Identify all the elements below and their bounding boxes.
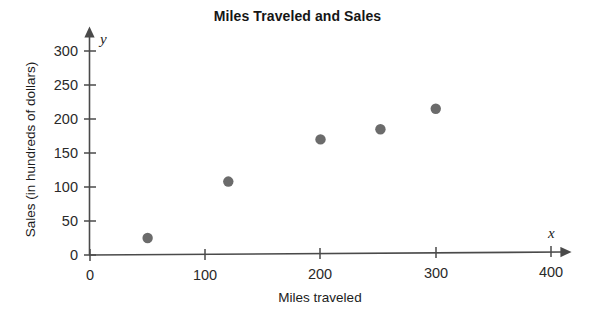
- x-axis-ticks: [90, 246, 551, 261]
- data-point: [223, 176, 233, 186]
- scatter-chart: Miles Traveled and Sales: [0, 0, 595, 320]
- x-tick-label-0: 0: [86, 267, 94, 283]
- y-axis-title: Sales (in hundreds of dollars): [23, 35, 38, 265]
- y-tick-label-100: 100: [54, 179, 78, 195]
- data-point: [142, 233, 152, 243]
- x-tick-label-100: 100: [193, 267, 217, 283]
- y-tick-label-0: 0: [70, 247, 78, 263]
- x-axis-line: [89, 252, 562, 255]
- y-tick-label-300: 300: [54, 43, 78, 59]
- plot-area: 0 100 200 300 400 0 50 100 150 200 250 3…: [0, 0, 595, 320]
- x-axis-variable-label: x: [547, 225, 555, 241]
- y-tick-label-200: 200: [54, 111, 78, 127]
- data-point: [315, 134, 325, 144]
- x-tick-label-300: 300: [424, 265, 448, 281]
- y-axis-variable-label: y: [98, 31, 107, 47]
- y-tick-label-250: 250: [54, 77, 78, 93]
- data-point: [375, 124, 385, 134]
- x-axis-title: Miles traveled: [90, 290, 550, 305]
- data-point-group: [142, 104, 441, 244]
- x-tick-label-200: 200: [308, 266, 332, 282]
- y-tick-label-50: 50: [62, 213, 78, 229]
- y-tick-label-150: 150: [54, 145, 78, 161]
- x-tick-label-400: 400: [539, 264, 563, 280]
- data-point: [431, 104, 441, 114]
